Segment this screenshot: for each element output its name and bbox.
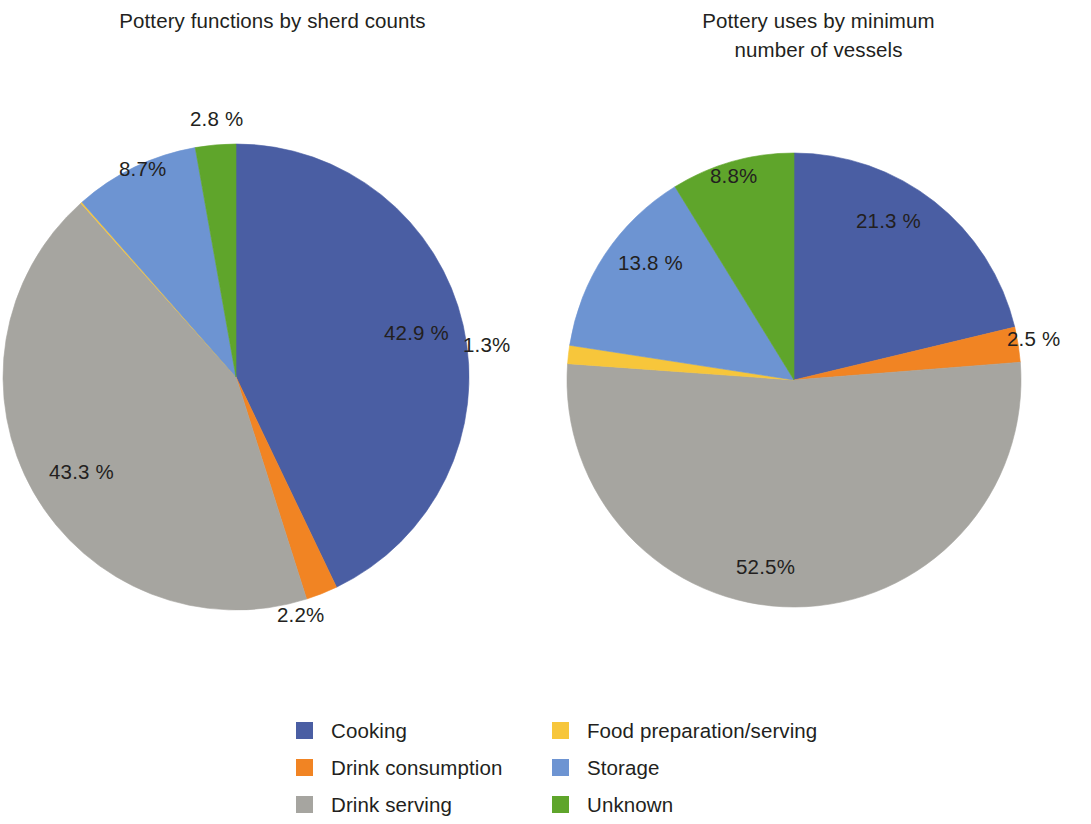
legend-item-cooking[interactable]: Cooking [296, 712, 566, 749]
legend-item-drink-consumption[interactable]: Drink consumption [296, 749, 566, 786]
legend-swatch-food-preparation-serving-icon [552, 722, 569, 739]
left-slice-label-unknown: 2.8 % [190, 108, 243, 130]
legend-column-1: Cooking Drink consumption Drink serving [296, 712, 566, 823]
legend: Cooking Drink consumption Drink serving … [296, 712, 856, 824]
legend-column-2: Food preparation/serving Storage Unknown [552, 712, 822, 823]
left-slice-label-drink-serving: 43.3 % [49, 461, 114, 483]
legend-item-food-preparation-serving[interactable]: Food preparation/serving [552, 712, 822, 749]
legend-swatch-drink-consumption-icon [296, 759, 313, 776]
legend-swatch-unknown-icon [552, 796, 569, 813]
legend-label-unknown: Unknown [587, 793, 673, 817]
right-slice-label-drink-consumption: 2.5 % [1007, 328, 1060, 350]
right-slice-label-food-prep: 1.3% [463, 334, 511, 356]
left-slice-label-drink-consumption: 2.2% [277, 604, 325, 626]
legend-label-drink-consumption: Drink consumption [331, 756, 502, 780]
legend-swatch-storage-icon [552, 759, 569, 776]
legend-item-storage[interactable]: Storage [552, 749, 822, 786]
right-slice-label-drink-serving: 52.5% [736, 556, 795, 578]
legend-label-cooking: Cooking [331, 719, 407, 743]
left-slice-label-cooking: 42.9 % [384, 322, 449, 344]
legend-swatch-cooking-icon [296, 722, 313, 739]
legend-label-drink-serving: Drink serving [331, 793, 452, 817]
legend-label-food-preparation-serving: Food preparation/serving [587, 719, 817, 743]
left-slice-label-storage: 8.7% [119, 158, 167, 180]
legend-swatch-drink-serving-icon [296, 796, 313, 813]
right-slice-label-storage: 13.8 % [618, 252, 683, 274]
legend-item-unknown[interactable]: Unknown [552, 786, 822, 823]
right-pie-panel: 8.8% 13.8 % 21.3 % 1.3% 2.5 % 52.5% [546, 0, 1091, 700]
right-pie-svg [546, 0, 1091, 700]
pie-chart-figure: Pottery functions by sherd counts Potter… [0, 0, 1091, 824]
legend-label-storage: Storage [587, 756, 660, 780]
legend-item-drink-serving[interactable]: Drink serving [296, 786, 566, 823]
right-slice-label-cooking: 21.3 % [856, 210, 921, 232]
right-slice-label-unknown: 8.8% [710, 165, 758, 187]
